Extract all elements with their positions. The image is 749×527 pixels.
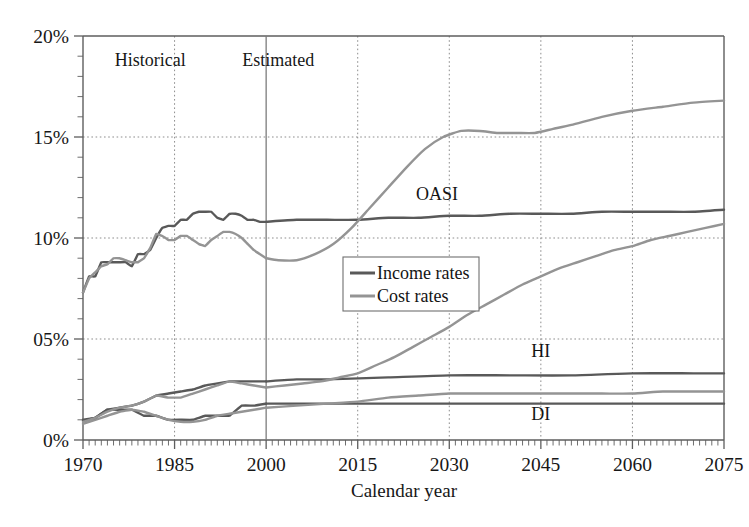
x-axis-tick-label: 2030	[430, 454, 469, 475]
x-axis-title: Calendar year	[351, 480, 458, 501]
x-axis-tick-label: 2015	[338, 454, 377, 475]
series-label-hi: HI	[531, 341, 550, 361]
estimated-label: Estimated	[242, 50, 314, 70]
legend-label-income-rates: Income rates	[377, 263, 469, 283]
y-axis-tick-label: 0%	[43, 430, 69, 451]
series-label-di: DI	[531, 404, 550, 424]
historical-label: Historical	[115, 50, 186, 70]
x-axis-tick-label: 2075	[705, 454, 744, 475]
y-axis-tick-label: 15%	[33, 127, 69, 148]
chart-figure: 197019852000201520302045206020750%05%10%…	[0, 0, 749, 527]
x-axis-tick-label: 2045	[521, 454, 560, 475]
y-axis-tick-label: 05%	[33, 329, 69, 350]
x-axis-tick-label: 1970	[64, 454, 103, 475]
y-axis-tick-label: 20%	[33, 26, 69, 47]
x-axis-tick-label: 1985	[155, 454, 194, 475]
x-axis-tick-label: 2000	[247, 454, 286, 475]
series-label-oasi: OASI	[416, 184, 458, 204]
x-axis-tick-label: 2060	[613, 454, 652, 475]
y-axis-tick-label: 10%	[33, 228, 69, 249]
income-and-cost-rates-line-chart: 197019852000201520302045206020750%05%10%…	[0, 0, 749, 527]
legend-label-cost-rates: Cost rates	[377, 286, 449, 306]
chart-legend: Income ratesCost rates	[343, 257, 479, 311]
